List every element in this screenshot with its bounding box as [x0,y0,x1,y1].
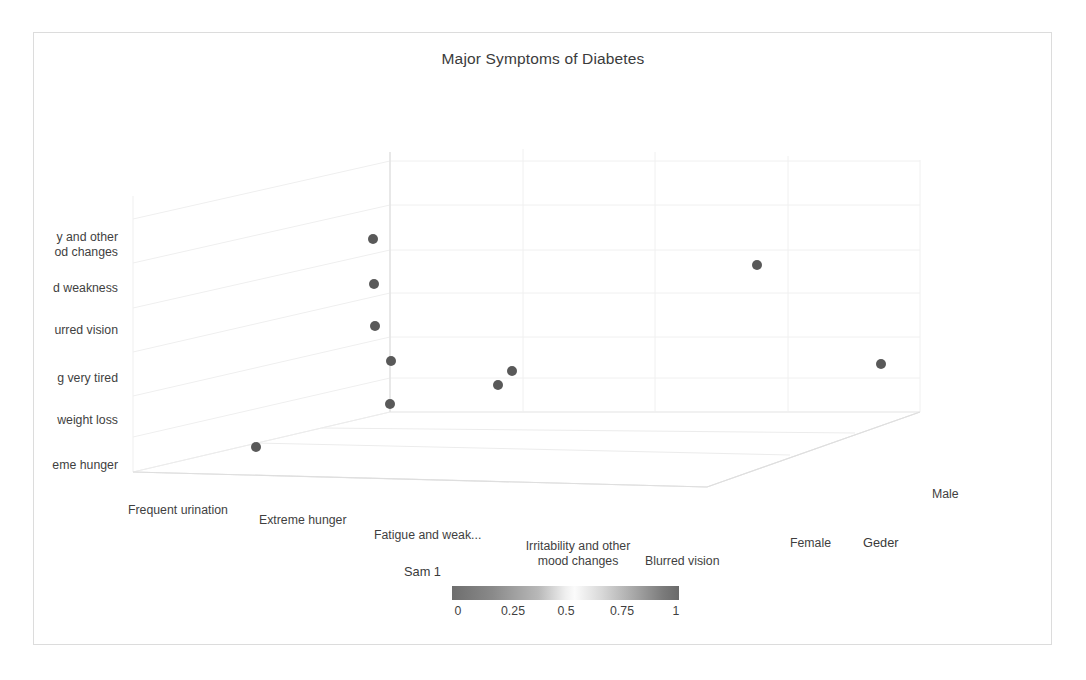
colorbar-tick-label: 0.75 [599,604,645,618]
chart-title: Major Symptoms of Diabetes [0,50,1086,68]
scatter-point [752,260,762,270]
colorbar-tick-label: 0.25 [490,604,536,618]
y-tick-label: y and other od changes [0,230,118,259]
colorbar-tick-label: 0 [435,604,481,618]
y-tick-label: d weakness [0,281,118,296]
x-axis-title: Sam 1 [404,564,441,579]
y-tick-label: g very tired [0,371,118,386]
x-tick-label: Irritability and other mood changes [498,539,658,568]
colorbar-tick-label: 0.5 [543,604,589,618]
scatter-point [507,366,517,376]
figure-canvas: Major Symptoms of Diabetes [0,0,1086,680]
z-axis-title: Geder [863,535,899,550]
z-tick-label: Female [790,536,831,550]
colorbar [452,586,679,600]
x-tick-label: Blurred vision [645,554,805,569]
scatter-point [385,399,395,409]
colorbar-gradient [452,586,679,600]
x-tick-label: Extreme hunger [259,513,419,528]
scatter-point [386,356,396,366]
y-tick-label: weight loss [0,413,118,428]
y-tick-label: eme hunger [0,458,118,473]
scatter-point [493,380,503,390]
scatter-point [876,359,886,369]
scatter-point [369,279,379,289]
scatter-point [368,234,378,244]
scatter-point [370,321,380,331]
scatter-point [251,442,261,452]
y-tick-label: urred vision [0,323,118,338]
z-tick-label: Male [932,487,959,501]
colorbar-tick-label: 1 [653,604,699,618]
